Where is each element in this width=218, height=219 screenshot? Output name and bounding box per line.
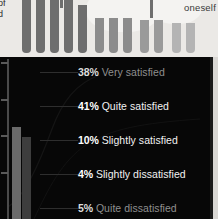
legend-list: 38% Very satisfied41% Quite satisfied10%… [78,57,213,219]
legend-leader-line [40,140,78,141]
bar-stalk-left [60,0,63,8]
y-axis-tick [1,62,8,64]
legend-item[interactable]: 5% Quite dissatisfied [78,202,213,214]
legend-leader-line [40,174,78,175]
legend-percent: 4% [78,168,93,180]
legend-item[interactable]: 4% Slightly dissatisfied [78,168,213,180]
top-bar [64,0,73,53]
legend-item[interactable]: 38% Very satisfied [78,66,213,78]
top-bar [172,23,181,53]
top-bar [186,23,195,53]
legend-label: Slightly satisfied [102,134,178,146]
top-bar [109,18,118,53]
legend-percent: 10% [78,134,99,146]
legend-item[interactable]: 41% Quite satisfied [78,100,213,112]
top-bar [140,20,149,53]
bar-stalk-right [150,0,153,18]
top-bar [95,18,104,53]
top-bar-chart-panel: of d oneself [0,0,218,57]
legend-leader-line [40,208,78,209]
legend-item[interactable]: 10% Slightly satisfied [78,134,213,146]
legend-leader-line [40,72,78,73]
top-bar [123,18,132,53]
legend-leader-line [40,106,78,107]
legend-label: Slightly dissatisfied [96,168,186,180]
top-bar [78,5,87,53]
dark-chart-panel: 38% Very satisfied41% Quite satisfied10%… [0,57,218,219]
top-bar [50,0,59,53]
y-axis-tick [1,135,8,137]
legend-percent: 41% [78,100,99,112]
top-bar [22,0,31,53]
y-axis-tick [1,99,8,101]
dark-bar [12,127,21,219]
legend-label: Quite satisfied [102,100,169,112]
screenshot-root: of d oneself 38% Very satisfied41% Quite… [0,0,218,219]
y-axis-line [7,59,9,219]
legend-percent: 38% [78,66,99,78]
legend-percent: 5% [78,202,93,214]
right-edge-light-strip [213,57,218,219]
legend-label: Very satisfied [102,66,165,78]
oneself-label: oneself [184,2,216,13]
top-bar [36,0,45,53]
legend-label: Quite dissatisfied [96,202,177,214]
y-axis-tick [1,172,8,174]
top-bar [154,20,163,53]
dark-bar [22,137,31,219]
